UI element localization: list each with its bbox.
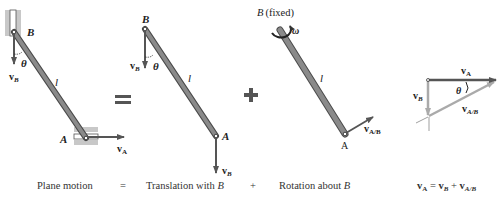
label-vAB: vA/B: [462, 103, 479, 116]
label-omega: ω: [292, 25, 299, 36]
label-length-l: l: [320, 72, 323, 84]
caption-plus: +: [250, 180, 256, 191]
label-A: A: [341, 140, 349, 151]
label-A: A: [221, 130, 229, 142]
relative-velocity-diagram: B θ vB l A vA B vB θ l A vB: [0, 0, 504, 199]
panel-vector-triangle: vA vB θ vA/B: [413, 65, 496, 131]
label-length-l: l: [188, 72, 191, 84]
caption-rotation: Rotation about B: [279, 180, 351, 191]
label-vB: vB: [9, 71, 19, 84]
angle-theta-arc: [14, 52, 22, 54]
label-B-fixed: B(fixed): [257, 7, 294, 19]
caption-equals: =: [120, 180, 126, 191]
angle-theta-arc: [145, 55, 153, 57]
operator-equals: [115, 95, 131, 104]
label-A: A: [59, 133, 67, 145]
label-vB-bottom: vB: [222, 165, 232, 178]
label-vB: vB: [413, 90, 423, 103]
label-B: B: [141, 13, 149, 25]
label-theta: θ: [456, 85, 462, 96]
label-vA: vA: [461, 65, 471, 78]
panel-rotation: B(fixed) ω l A vA/B: [257, 7, 381, 151]
label-theta: θ: [153, 60, 159, 72]
caption-translation: Translation with B: [146, 180, 224, 191]
panel-plane-motion: B θ vB l A vA: [5, 10, 127, 156]
caption-equation: vA = vB + vA/B: [417, 180, 476, 193]
reference-line: [416, 117, 428, 123]
caption-plane-motion: Plane motion: [37, 180, 93, 191]
panel-translation: B vB θ l A vB: [130, 13, 232, 178]
origin-point: [427, 79, 430, 82]
label-vA: vA: [117, 143, 127, 156]
operator-plus: [244, 88, 258, 102]
label-length-l: l: [55, 76, 58, 88]
label-B: B: [26, 26, 34, 38]
angle-theta-arc: [466, 82, 468, 93]
label-vAB: vA/B: [364, 123, 381, 136]
label-theta: θ: [21, 57, 27, 69]
captions: Plane motion = Translation with B + Rota…: [37, 180, 476, 193]
label-vB-top: vB: [130, 60, 140, 73]
